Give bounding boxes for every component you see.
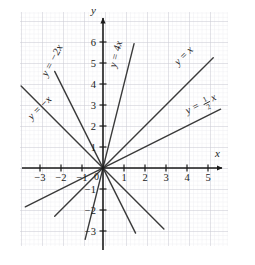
- coordinate-plane-svg: −3−2−112345−3−2−1123456 x y 0 y = −2xy =…: [0, 0, 255, 265]
- origin-label: 0: [94, 171, 99, 182]
- y-tick-label: 1: [91, 142, 96, 153]
- y-tick-label: 3: [91, 100, 96, 111]
- y-tick-label: −1: [85, 184, 96, 195]
- x-tick-label: 4: [184, 172, 190, 183]
- y-tick-label: 5: [91, 58, 96, 69]
- x-tick-label: 1: [121, 172, 126, 183]
- y-tick-label: −2: [85, 205, 96, 216]
- x-tick-label: −3: [34, 172, 45, 183]
- y-tick-label: −3: [85, 226, 96, 237]
- y-tick-label: 4: [91, 79, 97, 90]
- y-tick-label: 6: [91, 37, 96, 48]
- x-tick-label: −2: [55, 172, 66, 183]
- figure-container: −3−2−112345−3−2−1123456 x y 0 y = −2xy =…: [0, 0, 255, 265]
- x-tick-label: 3: [163, 172, 168, 183]
- y-tick-label: 2: [91, 121, 96, 132]
- y-axis-label: y: [90, 4, 96, 16]
- x-axis-label: x: [214, 147, 220, 159]
- x-tick-label: 5: [205, 172, 210, 183]
- x-tick-label: 2: [142, 172, 147, 183]
- x-tick-label: −1: [76, 172, 87, 183]
